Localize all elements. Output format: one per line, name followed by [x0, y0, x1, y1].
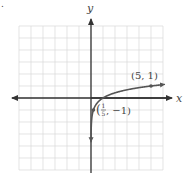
point-fifth-neg1 [92, 108, 96, 112]
corner-mark: . [1, 0, 4, 9]
point-5-1 [149, 84, 153, 88]
y-axis-label: y [86, 2, 94, 15]
label-open-paren: ( [96, 103, 101, 117]
point-label-5-1: (5, 1) [131, 70, 158, 81]
log-graph: . x y (5, 1) ( 1 5 , −1) [0, 0, 185, 173]
x-axis-label: x [176, 92, 183, 105]
label-fraction-numerator: 1 [102, 102, 106, 109]
point-label-fifth-neg1: ( 1 5 , −1) [96, 102, 131, 117]
label-rest: , −1) [106, 105, 131, 116]
label-fraction-denominator: 5 [102, 110, 106, 117]
